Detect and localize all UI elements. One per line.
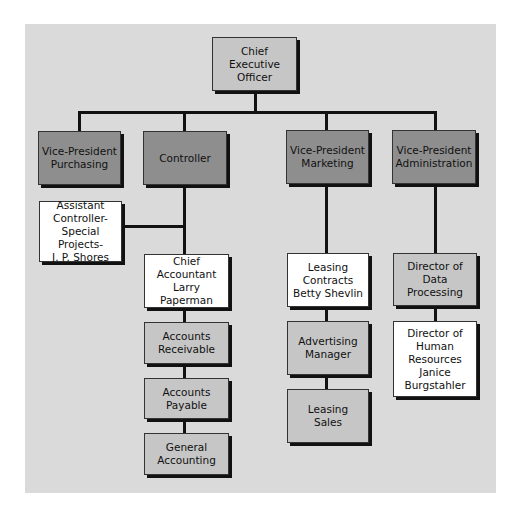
connector-ceo-down bbox=[254, 91, 257, 113]
leasing-sales-box: Leasing Sales bbox=[287, 389, 369, 443]
chief-accountant-label: Chief Accountant Larry Paperman bbox=[147, 255, 226, 307]
connector-top-horizontal bbox=[78, 111, 437, 114]
connector-controller bbox=[183, 111, 186, 131]
connector-vp-marketing bbox=[325, 111, 328, 131]
director-hr-label: Director of Human Resources Janice Burgs… bbox=[404, 327, 465, 392]
vp-marketing-label: Vice-President Marketing bbox=[290, 144, 365, 170]
leasing-sales-label: Leasing Sales bbox=[308, 403, 348, 429]
general-accounting-label: General Accounting bbox=[157, 441, 216, 467]
controller-label: Controller bbox=[159, 152, 211, 165]
leasing-contracts-label: Leasing Contracts Betty Shevlin bbox=[293, 261, 363, 300]
vp-marketing-box: Vice-President Marketing bbox=[286, 130, 369, 184]
controller-box: Controller bbox=[143, 131, 227, 185]
connector-vp-purchasing bbox=[78, 111, 81, 131]
accounts-receivable-box: Accounts Receivable bbox=[144, 322, 229, 364]
vp-admin-label: Vice-President Administration bbox=[396, 144, 473, 170]
director-data-processing-label: Director of Data Processing bbox=[407, 260, 463, 299]
ceo-box: Chief Executive Officer bbox=[212, 37, 297, 91]
vp-purchasing-label: Vice-President Purchasing bbox=[42, 145, 117, 171]
assistant-controller-box: Assistant Controller- Special Projects- … bbox=[39, 201, 122, 262]
connector-vp-admin bbox=[434, 111, 437, 131]
director-hr-box: Director of Human Resources Janice Burgs… bbox=[393, 321, 477, 397]
ceo-label: Chief Executive Officer bbox=[215, 45, 294, 84]
general-accounting-box: General Accounting bbox=[144, 433, 229, 475]
assistant-controller-label: Assistant Controller- Special Projects- … bbox=[42, 199, 119, 264]
accounts-payable-box: Accounts Payable bbox=[144, 378, 229, 419]
accounts-payable-label: Accounts Payable bbox=[163, 386, 211, 412]
vp-admin-box: Vice-President Administration bbox=[392, 130, 476, 184]
chief-accountant-box: Chief Accountant Larry Paperman bbox=[144, 254, 229, 308]
vp-purchasing-box: Vice-President Purchasing bbox=[38, 131, 121, 185]
accounts-receivable-label: Accounts Receivable bbox=[158, 330, 215, 356]
leasing-contracts-box: Leasing Contracts Betty Shevlin bbox=[287, 253, 369, 307]
director-data-processing-box: Director of Data Processing bbox=[393, 253, 477, 306]
advertising-manager-box: Advertising Manager bbox=[287, 321, 369, 375]
connector-assistant bbox=[122, 225, 184, 228]
advertising-manager-label: Advertising Manager bbox=[298, 335, 357, 361]
